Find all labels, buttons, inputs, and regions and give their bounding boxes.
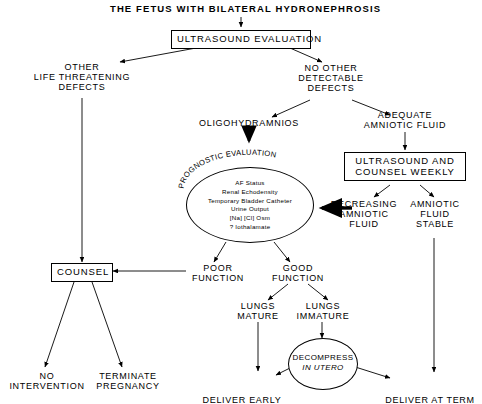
criteria-item: ? Iothalamate xyxy=(186,223,314,232)
node-adequate-amniotic-fluid: ADEQUATE AMNIOTIC FLUID xyxy=(355,110,455,130)
node-prognostic-evaluation[interactable]: AF Status Renal Echodensity Temporary Bl… xyxy=(186,167,314,243)
page-title: THE FETUS WITH BILATERAL HYDRONEPHROSIS xyxy=(110,4,372,15)
deliver-term-line1: DELIVER AT TERM xyxy=(378,395,482,404)
node-ultrasound-counsel-weekly[interactable]: ULTRASOUND AND COUNSEL WEEKLY xyxy=(344,152,466,181)
node-lungs-immature: LUNGS IMMATURE xyxy=(292,301,354,321)
node-terminate-pregnancy: TERMINATE PREGNANCY xyxy=(90,371,166,391)
node-poor-function: POOR FUNCTION xyxy=(185,263,251,283)
edge-counsel-to-no-intervention xyxy=(45,282,74,367)
node-other-life-threatening-defects: OTHER LIFE THREATENING DEFECTS xyxy=(22,62,142,92)
node-decreasing-amniotic-fluid: DECREASING AMNIOTIC FLUID xyxy=(322,199,406,229)
edge-prognostic-to-poor-function xyxy=(214,242,226,262)
node-good-function: GOOD FUNCTION xyxy=(265,263,331,283)
criteria-item: Renal Echodensity xyxy=(186,188,314,197)
edge-weekly-to-fluid-stable xyxy=(420,185,434,197)
node-amniotic-fluid-stable: AMNIOTIC FLUID STABLE xyxy=(404,199,466,229)
node-lungs-mature: LUNGS MATURE xyxy=(228,301,288,321)
node-decompress-in-utero[interactable]: DECOMPRESS IN UTERO xyxy=(288,338,358,390)
edge-weekly-to-decreasing-fluid xyxy=(374,185,390,197)
decompress-label-line2: IN UTERO xyxy=(288,363,358,373)
node-counsel[interactable]: COUNSEL xyxy=(51,263,113,282)
deliver-early-line1: DELIVER EARLY xyxy=(186,395,298,404)
node-no-other-detectable-defects: NO OTHER DETECTABLE DEFECTS xyxy=(281,63,381,93)
criteria-item: Temporary Bladder Catheter xyxy=(186,197,314,206)
edge-ultrasound-to-other-defects xyxy=(120,48,196,62)
node-ultrasound-evaluation[interactable]: ULTRASOUND EVALUATION xyxy=(171,30,311,49)
node-no-intervention: NO INTERVENTION xyxy=(8,371,86,391)
node-deliver-early-correct-ex-utero: DELIVER EARLY CORRECT EX UTERO xyxy=(186,375,298,404)
edge-good-function-to-lungs-immature xyxy=(308,284,328,300)
criteria-item: AF Status xyxy=(186,179,314,188)
criteria-item: [Na] [Cl] Osm xyxy=(186,214,314,223)
edge-ultrasound-to-no-other-defects xyxy=(290,48,322,62)
flowchart-canvas: PROGNOSTIC EVALUATION THE FETUS WITH BIL… xyxy=(0,0,482,404)
node-oligohydramnios: OLIGOHYDRAMNIOS xyxy=(194,118,304,128)
criteria-item: Urine Output xyxy=(186,205,314,214)
edge-no-other-to-oligohydramnios xyxy=(272,100,310,117)
edge-counsel-to-terminate-pregnancy xyxy=(92,282,122,367)
decompress-label-line1: DECOMPRESS xyxy=(288,353,358,363)
edge-good-function-to-lungs-mature xyxy=(268,284,288,300)
node-deliver-at-term-correct-ex-utero: DELIVER AT TERM CORRECT EX UTERO xyxy=(378,375,482,404)
prognostic-evaluation-criteria-list: AF Status Renal Echodensity Temporary Bl… xyxy=(186,179,314,232)
decompress-label-group: DECOMPRESS IN UTERO xyxy=(288,353,358,374)
edge-prognostic-to-good-function xyxy=(274,242,290,262)
